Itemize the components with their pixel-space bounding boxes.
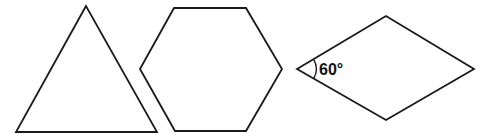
shapes-diagram: 60° <box>0 0 490 138</box>
angle-label: 60° <box>319 61 343 78</box>
angle-arc <box>314 59 317 79</box>
diagram-svg: 60° <box>0 0 490 138</box>
regular-hexagon <box>140 8 282 131</box>
equilateral-triangle <box>16 6 157 132</box>
